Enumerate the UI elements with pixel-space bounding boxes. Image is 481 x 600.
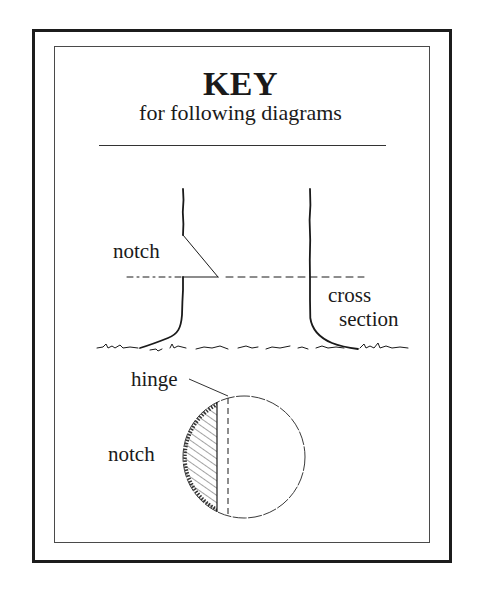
key-diagram: notch cross section hinge notch xyxy=(0,0,481,600)
stump-cross-section xyxy=(183,379,305,518)
notch-cut-diagonal xyxy=(183,235,218,277)
hinge-leader-line xyxy=(189,379,228,396)
cross-section-notch-label: notch xyxy=(108,442,155,466)
left-trunk-upper xyxy=(183,189,184,235)
tree-notch-label: notch xyxy=(113,239,160,263)
hinge-label: hinge xyxy=(131,367,178,391)
cross-section-label-line2: section xyxy=(339,307,399,331)
cross-section-label-line1: cross xyxy=(328,283,371,307)
left-trunk-lower xyxy=(140,277,183,348)
